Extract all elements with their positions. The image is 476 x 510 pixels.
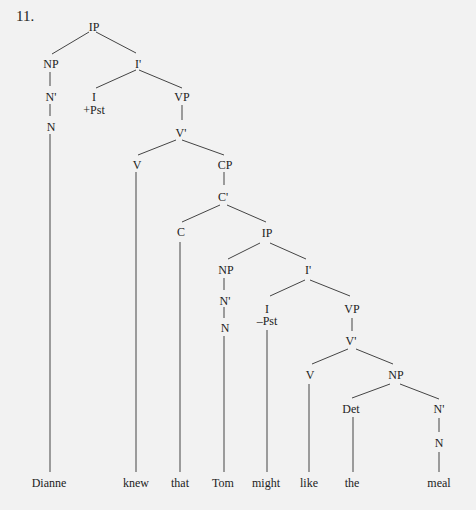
node-cp: CP bbox=[218, 159, 233, 172]
word-like: like bbox=[300, 477, 318, 490]
node-v: V bbox=[133, 159, 142, 172]
node-v-embedded: V bbox=[306, 369, 315, 382]
word-might: might bbox=[252, 477, 280, 490]
tree-branches bbox=[0, 0, 476, 510]
node-i-bar-embedded: I' bbox=[305, 264, 311, 277]
word-tom: Tom bbox=[212, 477, 234, 490]
node-n-bar-subject: N' bbox=[220, 295, 231, 308]
node-ip-embedded: IP bbox=[262, 227, 273, 240]
node-n-subject: N bbox=[221, 322, 230, 335]
node-det: Det bbox=[342, 403, 359, 416]
node-ip: IP bbox=[89, 21, 100, 34]
node-i-bar: I' bbox=[135, 58, 141, 71]
syntax-tree: 11. IP NP I' N' N I +Pst VP V' V CP C' C… bbox=[0, 0, 476, 510]
node-np-subject: NP bbox=[218, 264, 233, 277]
example-number: 11. bbox=[16, 8, 34, 25]
node-n-bar: N' bbox=[46, 91, 57, 104]
node-v-bar: V' bbox=[176, 127, 187, 140]
node-vp-embedded: VP bbox=[344, 303, 359, 316]
node-n-bar-object: N' bbox=[434, 403, 445, 416]
word-that: that bbox=[171, 477, 189, 490]
word-knew: knew bbox=[123, 477, 149, 490]
word-the: the bbox=[345, 477, 360, 490]
node-c: C bbox=[177, 226, 185, 239]
node-i-feature-embedded: –Pst bbox=[257, 315, 278, 328]
node-vp: VP bbox=[174, 91, 189, 104]
node-n: N bbox=[47, 121, 56, 134]
node-c-bar: C' bbox=[218, 191, 228, 204]
node-i-feature: +Pst bbox=[83, 104, 104, 117]
word-meal: meal bbox=[427, 477, 450, 490]
node-n-object: N bbox=[435, 437, 444, 450]
node-np-object: NP bbox=[388, 369, 403, 382]
word-dianne: Dianne bbox=[32, 477, 67, 490]
node-v-bar-embedded: V' bbox=[346, 335, 357, 348]
node-np: NP bbox=[43, 58, 58, 71]
